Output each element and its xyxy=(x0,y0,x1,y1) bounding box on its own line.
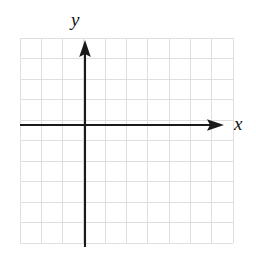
x-axis xyxy=(20,119,224,131)
grid-lines xyxy=(20,38,233,243)
x-axis-label: x xyxy=(234,114,242,133)
y-axis xyxy=(79,40,91,247)
coordinate-plane-svg xyxy=(0,0,256,256)
coordinate-grid-figure: y x xyxy=(0,0,256,256)
y-axis-label: y xyxy=(71,10,79,29)
